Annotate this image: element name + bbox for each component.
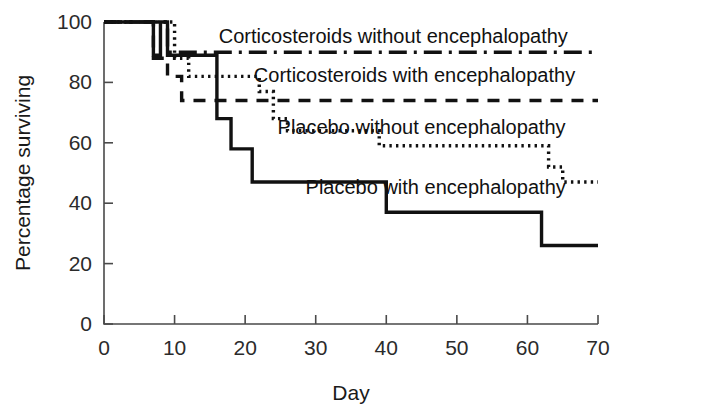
x-tick-label: 30 — [304, 336, 327, 359]
y-tick-label: 100 — [57, 10, 92, 33]
x-tick-label: 70 — [586, 336, 609, 359]
y-tick-label: 20 — [69, 252, 92, 275]
x-axis-title: Day — [332, 381, 370, 404]
series-label-3: Placebo with encephalopathy — [306, 176, 566, 198]
y-tick-label: 0 — [80, 312, 92, 335]
y-tick-label: 80 — [69, 70, 92, 93]
series-label-1: Corticosteroids with encephalopathy — [254, 64, 575, 86]
survival-chart-figure: 010203040506070 020406080100 Corticoster… — [0, 0, 714, 409]
y-tick-label: 40 — [69, 191, 92, 214]
x-tick-label: 0 — [98, 336, 110, 359]
x-tick-label: 50 — [445, 336, 468, 359]
y-tick-label: 60 — [69, 131, 92, 154]
x-tick-label: 20 — [233, 336, 256, 359]
chart-canvas: 010203040506070 020406080100 Corticoster… — [0, 0, 714, 409]
series-label-2: Placebo without encephalopathy — [278, 116, 566, 138]
y-axis-title: Percentage surviving — [11, 75, 34, 271]
x-tick-label: 60 — [516, 336, 539, 359]
x-tick-label: 10 — [163, 336, 186, 359]
x-tick-label: 40 — [375, 336, 398, 359]
series-label-0: Corticosteroids without encephalopathy — [219, 25, 568, 47]
